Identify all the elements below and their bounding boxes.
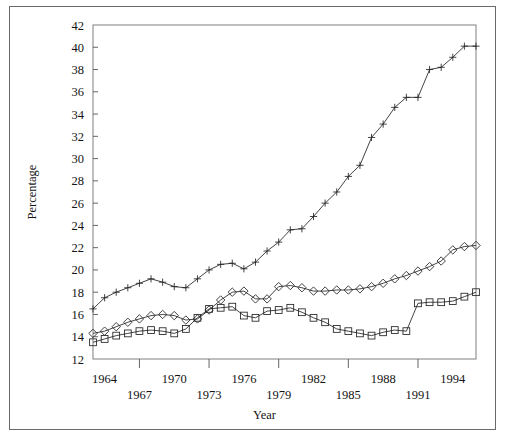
- x-tick-label: 1976: [231, 372, 256, 386]
- data-series-group: [89, 43, 480, 346]
- chart-legend: H & FMLTF & CALL: [161, 429, 408, 431]
- y-tick-label: 18: [72, 286, 85, 300]
- y-tick-label: 30: [72, 152, 85, 166]
- y-tick-label: 14: [72, 330, 85, 344]
- x-axis-ticks: 1964196719701973197619791982198519881991…: [92, 359, 466, 402]
- y-tick-label: 22: [72, 241, 85, 255]
- x-tick-label: 1967: [127, 388, 152, 402]
- y-axis-ticks: 12141618202224262830323436384042: [72, 19, 99, 367]
- y-tick-label: 34: [72, 108, 85, 122]
- y-axis-label: Percentage: [25, 164, 39, 219]
- y-tick-label: 16: [72, 308, 85, 322]
- y-tick-label: 36: [72, 85, 85, 99]
- y-tick-label: 32: [72, 130, 85, 144]
- x-tick-label: 1970: [162, 372, 187, 386]
- y-tick-label: 38: [72, 63, 85, 77]
- y-tick-label: 24: [72, 219, 85, 233]
- x-tick-label: 1964: [92, 372, 118, 386]
- figure-frame: 12141618202224262830323436384042 1964196…: [9, 6, 496, 430]
- y-tick-label: 40: [72, 41, 85, 55]
- legend-item-mltf-c[interactable]: MLTF & C: [264, 429, 336, 431]
- x-axis-title: Year: [253, 408, 277, 422]
- series-line: [93, 245, 476, 333]
- series-all: [89, 241, 480, 337]
- x-tick-label: 1988: [371, 372, 396, 386]
- x-tick-label: 1991: [405, 388, 430, 402]
- legend-label: ALL: [382, 429, 407, 431]
- x-tick-label: 1982: [301, 372, 326, 386]
- legend-item-all[interactable]: ALL: [368, 429, 408, 431]
- x-tick-label: 1973: [197, 388, 222, 402]
- x-axis-label: Year: [253, 408, 277, 422]
- y-tick-label: 12: [72, 353, 85, 367]
- y-tick-label: 20: [72, 263, 85, 277]
- chart-canvas: 12141618202224262830323436384042 1964196…: [10, 7, 495, 429]
- legend-item-h-f[interactable]: H & F: [161, 429, 208, 431]
- x-tick-label: 1994: [440, 372, 466, 386]
- series-line: [93, 46, 476, 309]
- legend-label: H & F: [174, 429, 207, 431]
- x-tick-label: 1985: [336, 388, 361, 402]
- x-tick-label: 1979: [266, 388, 291, 402]
- y-tick-label: 28: [72, 174, 85, 188]
- legend-label: MLTF & C: [278, 429, 337, 431]
- y-tick-label: 42: [72, 19, 85, 33]
- line-chart: 12141618202224262830323436384042 1964196…: [10, 7, 497, 431]
- y-tick-label: 26: [72, 197, 85, 211]
- y-axis-title: Percentage: [25, 164, 39, 219]
